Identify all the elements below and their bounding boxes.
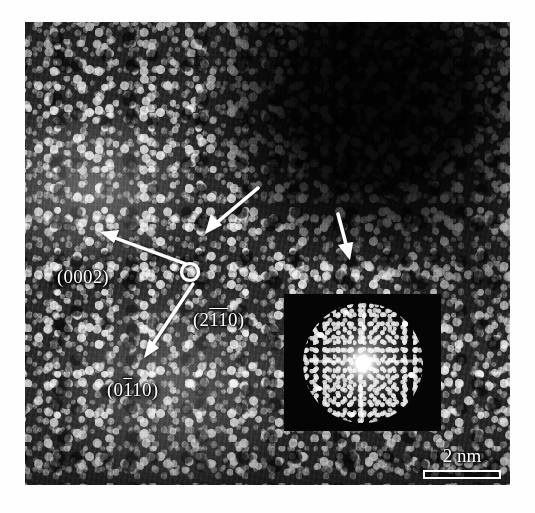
fft-reflection-spot	[408, 372, 415, 378]
axis-arm-0110	[144, 284, 193, 358]
fft-diffractogram-inset	[284, 294, 441, 431]
axes-origin-circle	[182, 264, 199, 281]
miller-index-label-0110: (0110)	[107, 379, 158, 401]
scale-bar-group: 2 nm	[418, 446, 506, 479]
axis-arm-0002	[100, 230, 186, 264]
miller-index-label-2110: (2110)	[193, 309, 244, 331]
crystal-axes-group	[100, 230, 199, 358]
fft-reflection-spot	[317, 332, 324, 338]
figure-root: (0002) (2110) (0110) 2	[0, 0, 535, 513]
label-2110-part1: (2	[193, 309, 209, 330]
label-0002-text: (0002)	[57, 266, 109, 287]
label-0110-part1: (0	[107, 379, 123, 400]
fft-reflection-spot	[344, 310, 349, 315]
pointer-arrow-interface-right	[338, 214, 353, 260]
miller-index-label-0002: (0002)	[57, 266, 109, 288]
scale-bar-rect	[423, 470, 501, 479]
scale-bar-label: 2 nm	[418, 446, 506, 466]
pointer-arrow-interface-left	[205, 188, 258, 234]
fft-reflection-spot	[350, 412, 355, 417]
label-2110-part3: 0)	[228, 309, 244, 330]
label-0110-part2-overbar: 1	[123, 379, 132, 400]
hrtem-micrograph-image: (0002) (2110) (0110) 2	[25, 22, 510, 485]
fft-reflection-spot	[402, 321, 408, 327]
label-2110-part2-overbar: 11	[209, 309, 228, 330]
label-0110-part3: 10)	[132, 379, 158, 400]
fft-reflection-spot	[316, 386, 322, 391]
